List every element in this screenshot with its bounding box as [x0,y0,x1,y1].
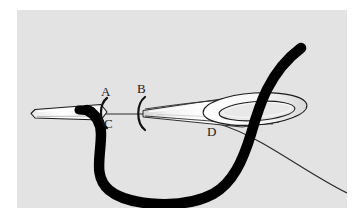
label-b: B [137,82,146,95]
label-c: C [104,117,113,130]
thick-thread-path [87,48,301,204]
label-d: D [207,125,217,138]
thick-thread-tip-stub [79,110,91,111]
illustration-panel: A B C D [17,10,347,208]
figure-root: A B C D [0,0,358,217]
suture-needle-illustration [17,10,347,208]
label-a: A [101,85,111,98]
